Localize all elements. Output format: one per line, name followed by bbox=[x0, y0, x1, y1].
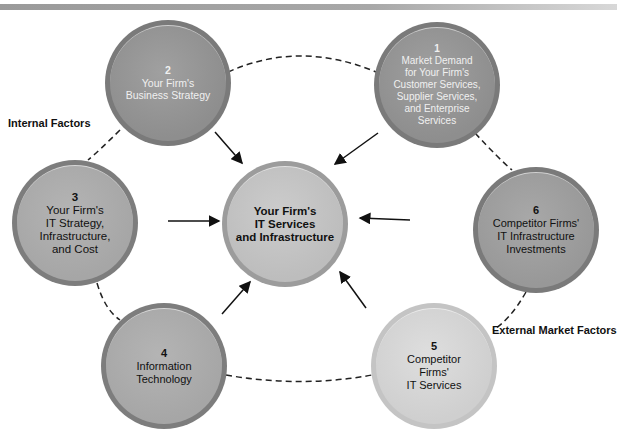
center-it-services-infrastructure: Your Firm's IT Services and Infrastructu… bbox=[222, 161, 348, 287]
node-number: 2 bbox=[126, 64, 211, 77]
node-2-business-strategy: 2 Your Firm's Business Strategy bbox=[105, 20, 231, 146]
external-market-factors-label: External Market Factors bbox=[492, 324, 617, 336]
node-6-competitor-infrastructure: 6 Competitor Firms' IT Infrastructure In… bbox=[473, 167, 599, 293]
internal-factors-label: Internal Factors bbox=[8, 117, 91, 129]
node-4-information-technology: 4 Information Technology bbox=[101, 303, 227, 429]
node-3-it-strategy: 3 Your Firm's IT Strategy, Infrastructur… bbox=[12, 160, 138, 286]
node-5-competitor-services: 5 Competitor Firms' IT Services bbox=[371, 303, 497, 429]
node-1-market-demand: 1 Market Demand for Your Firm's Customer… bbox=[374, 22, 500, 148]
